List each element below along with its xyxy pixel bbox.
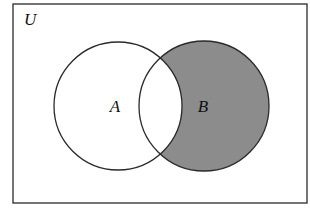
venn-diagram: U A B (0, 0, 310, 209)
set-a-label: A (109, 97, 121, 116)
universe-label: U (24, 10, 38, 29)
set-b-label: B (198, 97, 209, 116)
